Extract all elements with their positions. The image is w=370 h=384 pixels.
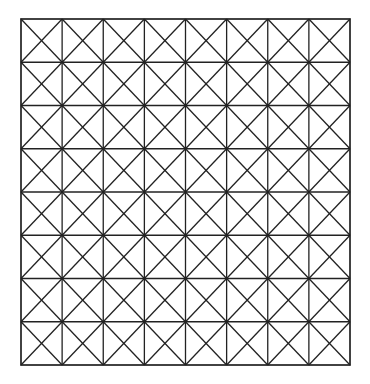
triangulated-grid-diagram (0, 0, 370, 384)
